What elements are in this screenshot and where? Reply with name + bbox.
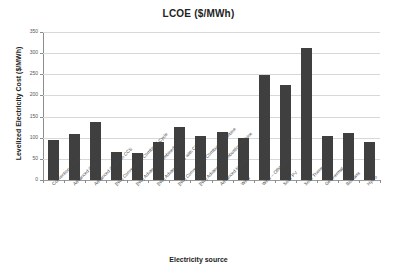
y-tick-label-0: 0 [16,177,38,182]
bar [343,133,354,180]
bar [174,127,185,180]
y-tick-mark-100 [40,138,43,139]
gridline-350 [43,32,380,33]
y-tick-mark-200 [40,95,43,96]
y-tick-mark-150 [40,117,43,118]
y-tick-label-250: 250 [16,71,38,76]
x-tick-mark [380,180,381,183]
bar [301,48,312,180]
y-tick-mark-50 [40,159,43,160]
lcoe-bar-chart: LCOE ($/MWh) Levelized Electricity Cost … [0,0,397,280]
gridline-300 [43,53,380,54]
y-tick-mark-250 [40,74,43,75]
bar [90,122,101,180]
plot-area [43,32,380,180]
bar [322,136,333,180]
y-tick-label-350: 350 [16,29,38,34]
gridline-150 [43,117,380,118]
bar [48,140,59,180]
x-axis-category-labels: Conventional CoalAdvanced CoalAdvanced C… [43,183,380,253]
y-tick-label-150: 150 [16,114,38,119]
chart-title: LCOE ($/MWh) [0,8,397,19]
gridline-200 [43,95,380,96]
y-tick-label-300: 300 [16,50,38,55]
y-tick-label-200: 200 [16,92,38,97]
bar [259,75,270,180]
y-tick-mark-350 [40,32,43,33]
y-tick-mark-300 [40,53,43,54]
y-tick-label-50: 50 [16,156,38,161]
gridline-250 [43,74,380,75]
y-tick-label-100: 100 [16,135,38,140]
x-axis-title: Electricity source [0,256,397,263]
